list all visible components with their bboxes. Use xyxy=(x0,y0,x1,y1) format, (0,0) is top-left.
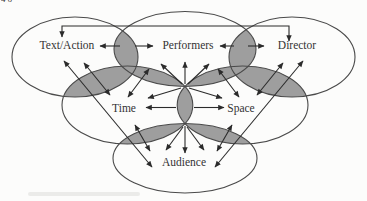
arrow-center-downleft-time xyxy=(148,88,181,98)
label-space: Space xyxy=(227,102,254,115)
label-performers: Performers xyxy=(162,39,214,51)
arrow-center-downright-space xyxy=(189,88,222,98)
performance-elements-diagram: 46 xyxy=(0,0,367,201)
scan-smudge-artifact xyxy=(28,192,140,196)
label-time: Time xyxy=(112,102,136,114)
label-text-action: Text/Action xyxy=(40,39,95,51)
label-audience: Audience xyxy=(162,156,206,168)
venn-diagram-canvas: Text/Action Performers Director Time Spa… xyxy=(0,0,367,201)
label-director: Director xyxy=(278,39,316,51)
